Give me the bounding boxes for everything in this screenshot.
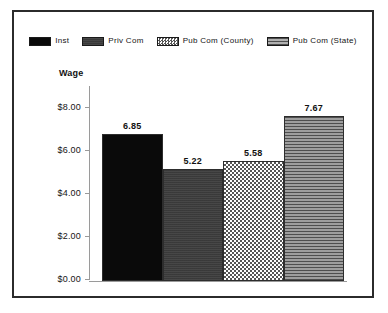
y-tick-label-0: $0.00 <box>27 275 81 284</box>
y-axis-title: Wage <box>59 68 83 78</box>
bar-slot-pub-com-county[interactable]: 5.58 <box>223 88 284 281</box>
y-tick-mark-1 <box>85 236 90 237</box>
bar-value-inst: 6.85 <box>102 121 163 131</box>
bar-slot-pub-com-state[interactable]: 7.67 <box>284 88 345 281</box>
bar-slot-priv-com[interactable]: 5.22 <box>163 88 224 281</box>
bar-slot-inst[interactable]: 6.85 <box>102 88 163 281</box>
legend-item-priv-com[interactable]: Priv Com <box>82 36 143 46</box>
chart-frame: Inst Priv Com Pub Com (County) Pub Com (… <box>12 10 374 298</box>
y-tick-label-2: $4.00 <box>27 189 81 198</box>
y-tick-4: $8.00 <box>27 107 97 108</box>
legend-label-inst: Inst <box>55 36 69 46</box>
legend-swatch-inst <box>29 37 51 46</box>
bar-value-pub-com-state: 7.67 <box>284 103 345 113</box>
bar-value-pub-com-county: 5.58 <box>223 148 284 158</box>
y-tick-label-4: $8.00 <box>27 103 81 112</box>
bar-pub-com-state[interactable] <box>284 116 345 281</box>
y-tick-mark-0 <box>85 279 90 280</box>
y-tick-mark-3 <box>85 150 90 151</box>
y-tick-2: $4.00 <box>27 193 97 194</box>
y-axis-line <box>89 86 90 280</box>
bar-pub-com-county[interactable] <box>223 161 284 281</box>
chart-screenshot: Inst Priv Com Pub Com (County) Pub Com (… <box>0 0 388 313</box>
x-axis-line <box>89 281 347 282</box>
legend-label-priv-com: Priv Com <box>108 36 143 46</box>
legend-swatch-pub-com-county <box>157 37 179 46</box>
legend-swatch-pub-com-state <box>267 37 289 46</box>
y-tick-label-1: $2.00 <box>27 232 81 241</box>
y-tick-mark-2 <box>85 193 90 194</box>
legend-label-pub-com-state: Pub Com (State) <box>293 36 357 46</box>
legend-item-pub-com-county[interactable]: Pub Com (County) <box>157 36 254 46</box>
bar-inst[interactable] <box>102 134 163 281</box>
y-tick-label-3: $6.00 <box>27 146 81 155</box>
y-tick-3: $6.00 <box>27 150 97 151</box>
bar-group: 6.85 5.22 5.58 7.67 <box>102 88 344 281</box>
chart-legend: Inst Priv Com Pub Com (County) Pub Com (… <box>14 36 372 46</box>
legend-item-inst[interactable]: Inst <box>29 36 69 46</box>
bar-value-priv-com: 5.22 <box>163 156 224 166</box>
y-tick-0: $0.00 <box>27 279 97 280</box>
y-tick-1: $2.00 <box>27 236 97 237</box>
bar-priv-com[interactable] <box>163 169 224 281</box>
legend-item-pub-com-state[interactable]: Pub Com (State) <box>267 36 357 46</box>
y-tick-mark-4 <box>85 107 90 108</box>
legend-label-pub-com-county: Pub Com (County) <box>183 36 254 46</box>
legend-swatch-priv-com <box>82 37 104 46</box>
plot-area: $0.00 $2.00 $4.00 $6.00 $8.00 6. <box>89 86 347 282</box>
